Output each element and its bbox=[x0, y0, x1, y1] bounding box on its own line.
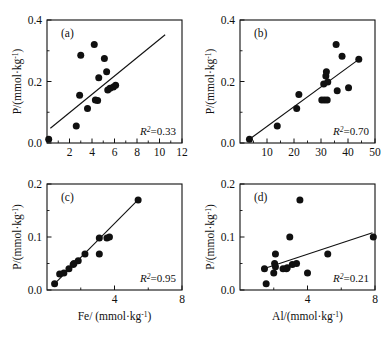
data-point bbox=[295, 91, 302, 98]
panel-letter-c: (c) bbox=[61, 191, 74, 204]
y-tick-label: 0.0 bbox=[28, 137, 43, 149]
data-point bbox=[96, 235, 103, 242]
data-point bbox=[334, 87, 341, 94]
y-tick-label: 0.1 bbox=[221, 231, 236, 243]
data-point bbox=[51, 280, 58, 287]
r2-annotation-d: R2=0.21 bbox=[332, 272, 369, 285]
x-tick-label: 30 bbox=[315, 146, 327, 158]
r2-annotation-a: R2=0.33 bbox=[139, 125, 176, 138]
x-tick-label: 8 bbox=[179, 293, 185, 305]
x-tick-label: 6 bbox=[112, 146, 118, 158]
r2-annotation-c: R2=0.95 bbox=[139, 272, 176, 285]
y-tick-label: 0.2 bbox=[221, 178, 236, 190]
data-point bbox=[324, 250, 331, 257]
chart-panel-a: 246810120.00.20.4(a)R2=0.33P/(mmol·kg-1) bbox=[0, 0, 193, 169]
x-tick-label: 4 bbox=[305, 293, 311, 305]
y-tick-label: 0.2 bbox=[221, 76, 236, 88]
chart-panel-d: 480.00.10.2(d)R2=0.21P/(mmol·kg-1)Al/(mm… bbox=[193, 169, 386, 338]
data-point bbox=[263, 280, 270, 287]
data-point bbox=[77, 52, 84, 59]
y-axis-title: P/(mmol·kg-1) bbox=[204, 49, 218, 115]
data-point bbox=[135, 196, 142, 203]
y-tick-label: 0.4 bbox=[221, 14, 236, 26]
data-point bbox=[339, 53, 346, 60]
panel-letter-a: (a) bbox=[61, 27, 74, 40]
data-point bbox=[333, 41, 340, 48]
data-point bbox=[293, 105, 300, 112]
data-point bbox=[370, 234, 377, 241]
x-tick-label: 8 bbox=[372, 293, 378, 305]
x-tick-label: 4 bbox=[112, 293, 118, 305]
x-tick-label: 8 bbox=[134, 146, 140, 158]
y-axis-title: P/(mmol·kg-1) bbox=[11, 204, 25, 270]
data-point bbox=[246, 136, 253, 143]
data-point bbox=[45, 136, 52, 143]
data-point bbox=[355, 56, 362, 63]
data-point bbox=[286, 234, 293, 241]
y-tick-label: 0.0 bbox=[28, 284, 43, 296]
data-point bbox=[324, 79, 331, 86]
x-tick-label: 10 bbox=[261, 146, 273, 158]
data-point bbox=[293, 260, 300, 267]
trendline bbox=[264, 233, 373, 269]
trendline bbox=[50, 35, 165, 128]
r2-annotation-b: R2=0.70 bbox=[332, 125, 369, 138]
data-point bbox=[323, 68, 330, 75]
data-point bbox=[75, 257, 82, 264]
data-point bbox=[96, 250, 103, 257]
data-point bbox=[345, 84, 352, 91]
x-tick-label: 2 bbox=[67, 146, 73, 158]
x-tick-label: 40 bbox=[342, 146, 354, 158]
data-point bbox=[304, 270, 311, 277]
y-axis-title: P/(mmol·kg-1) bbox=[204, 204, 218, 270]
x-tick-label: 20 bbox=[288, 146, 300, 158]
chart-panel-b: 10203040500.00.20.4(b)R2=0.70P/(mmol·kg-… bbox=[193, 0, 386, 169]
data-point bbox=[94, 97, 101, 104]
data-point bbox=[324, 96, 331, 103]
data-point bbox=[73, 123, 80, 130]
data-point bbox=[103, 68, 110, 75]
chart-panel-c: 480.00.10.2(c)R2=0.95P/(mmol·kg-1)Fe/ (m… bbox=[0, 169, 193, 338]
figure-container: 246810120.00.20.4(a)R2=0.33P/(mmol·kg-1)… bbox=[0, 0, 387, 338]
x-tick-label: 4 bbox=[89, 146, 95, 158]
data-point bbox=[95, 74, 102, 81]
data-point bbox=[270, 270, 277, 277]
y-axis-title: P/(mmol·kg-1) bbox=[11, 49, 25, 115]
data-point bbox=[101, 55, 108, 62]
data-point bbox=[274, 123, 281, 130]
data-point bbox=[76, 92, 83, 99]
y-tick-label: 0.2 bbox=[28, 178, 43, 190]
y-tick-label: 0.0 bbox=[221, 137, 236, 149]
panel-letter-b: (b) bbox=[254, 27, 268, 40]
y-tick-label: 0.4 bbox=[28, 14, 43, 26]
x-tick-label: 50 bbox=[369, 146, 381, 158]
x-axis-title-c: Fe/ (mmol·kg-1) bbox=[78, 310, 152, 324]
panel-letter-d: (d) bbox=[254, 191, 268, 204]
y-tick-label: 0.0 bbox=[221, 284, 236, 296]
y-tick-label: 0.1 bbox=[28, 231, 43, 243]
data-point bbox=[91, 41, 98, 48]
data-point bbox=[296, 196, 303, 203]
y-tick-label: 0.2 bbox=[28, 76, 43, 88]
data-point bbox=[272, 250, 279, 257]
data-point bbox=[106, 234, 113, 241]
data-point bbox=[81, 250, 88, 257]
x-tick-label: 10 bbox=[154, 146, 166, 158]
x-tick-label: 12 bbox=[176, 146, 188, 158]
data-point bbox=[112, 82, 119, 89]
data-point bbox=[261, 265, 268, 272]
data-point bbox=[84, 105, 91, 112]
x-axis-title-d: Al/(mmol·kg-1) bbox=[272, 310, 343, 324]
data-point bbox=[272, 263, 279, 270]
